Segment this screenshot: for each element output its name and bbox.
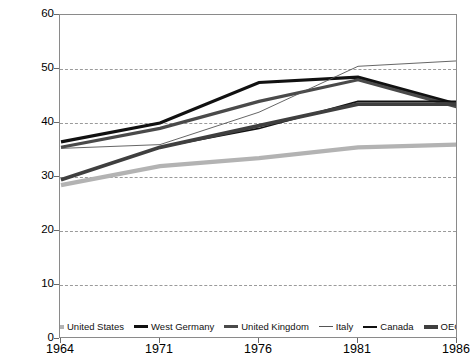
y-tick-label-50: 50	[32, 62, 54, 73]
x-tick-label-1976: 1976	[228, 342, 288, 357]
legend-item-italy[interactable]: Italy	[319, 321, 353, 332]
y-tickmark-20	[54, 230, 59, 231]
legend-item-oecd[interactable]: OECD	[424, 321, 457, 332]
legend-swatch-icon	[319, 326, 333, 327]
x-tickmark-1986	[456, 338, 457, 343]
y-tickmark-50	[54, 68, 59, 69]
x-tickmark-1976	[258, 338, 259, 343]
y-tickmark-0	[54, 338, 59, 339]
legend-item-united-kingdom[interactable]: United Kingdom	[224, 321, 309, 332]
x-tick-label-1964: 1964	[30, 342, 90, 357]
y-tickmark-40	[54, 122, 59, 123]
y-tickmark-60	[54, 14, 59, 15]
legend-swatch-icon	[59, 325, 64, 329]
y-tick-label-40: 40	[32, 116, 54, 127]
series-line-canada	[61, 101, 457, 179]
legend-swatch-icon	[424, 325, 438, 329]
y-tick-label-20: 20	[32, 224, 54, 235]
y-tick-label-30: 30	[32, 170, 54, 181]
x-tick-label-1971: 1971	[129, 342, 189, 357]
legend-swatch-icon	[224, 325, 238, 328]
legend-label: Canada	[380, 321, 413, 332]
x-tick-label-1981: 1981	[327, 342, 387, 357]
series-line-west-germany	[61, 77, 457, 142]
x-axis-tick-labels: 19641971197619811986	[0, 342, 467, 360]
legend-item-united-states[interactable]: United States	[59, 321, 124, 332]
series-line-oecd	[61, 104, 457, 180]
y-tickmark-30	[54, 176, 59, 177]
y-tick-label-60: 60	[32, 8, 54, 19]
x-tickmark-1981	[357, 338, 358, 343]
x-tick-label-1986: 1986	[426, 342, 474, 357]
legend-item-west-germany[interactable]: West Germany	[134, 321, 214, 332]
legend-label: Italy	[336, 321, 353, 332]
x-tickmark-1971	[159, 338, 160, 343]
y-axis-tick-labels: 6050403020100	[26, 0, 54, 360]
y-tick-label-10: 10	[32, 278, 54, 289]
legend-swatch-icon	[363, 326, 377, 328]
chart-legend: United StatesWest GermanyUnited KingdomI…	[61, 321, 457, 332]
y-tickmark-10	[54, 284, 59, 285]
legend-item-canada[interactable]: Canada	[363, 321, 413, 332]
x-tickmark-1964	[60, 338, 61, 343]
series-layer	[60, 15, 457, 338]
plot-area: United StatesWest GermanyUnited KingdomI…	[59, 14, 457, 338]
legend-label: United States	[67, 321, 124, 332]
legend-swatch-icon	[134, 325, 148, 328]
legend-label: United Kingdom	[241, 321, 309, 332]
series-line-united-kingdom	[61, 80, 457, 148]
legend-label: West Germany	[151, 321, 214, 332]
legend-label: OECD	[441, 321, 457, 332]
series-line-united-states	[61, 145, 457, 186]
